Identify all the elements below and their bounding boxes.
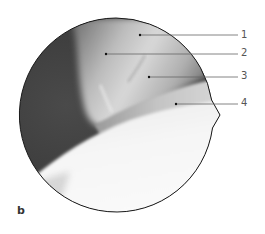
- arthroscopic-image: [0, 0, 265, 234]
- arthroscopy-figure: 1 2 3 4 b: [0, 0, 265, 234]
- callout-label-2: 2: [241, 48, 247, 58]
- callout-label-4: 4: [241, 98, 247, 108]
- callout-label-3: 3: [241, 71, 247, 81]
- callout-label-1: 1: [241, 30, 247, 40]
- panel-label: b: [17, 204, 25, 217]
